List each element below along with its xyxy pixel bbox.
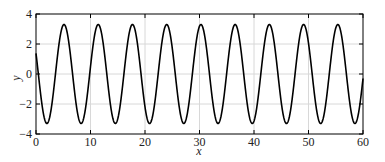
y-tick-label: 2 — [26, 37, 32, 51]
y-axis-label: y — [9, 75, 23, 82]
x-tick-label: 40 — [248, 135, 260, 149]
grid-lines — [36, 14, 363, 134]
x-tick-label: 0 — [33, 135, 39, 149]
x-tick-label: 60 — [357, 135, 369, 149]
y-tick-label: 4 — [26, 7, 32, 21]
x-axis-label: x — [195, 144, 202, 158]
y-tick-label: −2 — [19, 97, 32, 111]
x-tick-label: 10 — [85, 135, 97, 149]
x-tick-label: 50 — [303, 135, 315, 149]
y-tick-label: 0 — [26, 67, 32, 81]
x-tick-label: 20 — [139, 135, 151, 149]
axis-ticks: 0102030405060−4−2024 — [19, 7, 369, 149]
y-tick-label: −4 — [19, 127, 32, 141]
line-chart: 0102030405060−4−2024 x y — [0, 0, 385, 162]
